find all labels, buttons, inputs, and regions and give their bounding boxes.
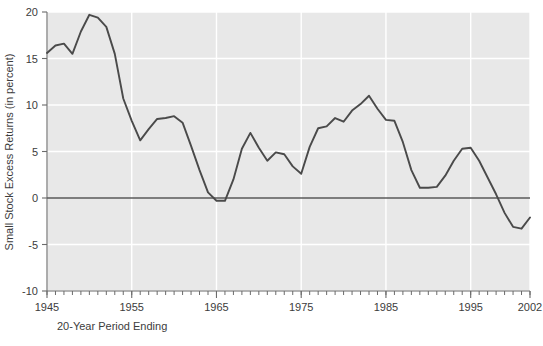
y-axis-ticks [42,12,47,291]
line-chart: -10-505101520 19451955196519751985199520… [0,0,543,346]
y-tick-label-15: 15 [26,53,38,65]
x-tick-label-1995: 1995 [458,301,482,313]
x-tick-label-1955: 1955 [119,301,143,313]
x-axis-tick-labels: 1945195519651975198519952002 [35,301,542,313]
chart-figure: -10-505101520 19451955196519751985199520… [0,0,543,346]
x-tick-label-1965: 1965 [204,301,228,313]
x-tick-label-1945: 1945 [35,301,59,313]
y-tick-label--10: -10 [22,285,38,297]
y-tick-label--5: -5 [28,239,38,251]
y-tick-label-10: 10 [26,99,38,111]
y-tick-label-0: 0 [32,192,38,204]
y-axis-tick-labels: -10-505101520 [22,6,38,297]
y-tick-label-20: 20 [26,6,38,18]
x-tick-label-2002: 2002 [518,301,542,313]
x-axis-title: 20-Year Period Ending [57,320,167,332]
y-axis-title: Small Stock Excess Returns (in percent) [3,54,15,251]
y-tick-label-5: 5 [32,146,38,158]
x-tick-label-1985: 1985 [374,301,398,313]
x-tick-label-1975: 1975 [289,301,313,313]
x-axis-major-ticks [47,291,530,298]
